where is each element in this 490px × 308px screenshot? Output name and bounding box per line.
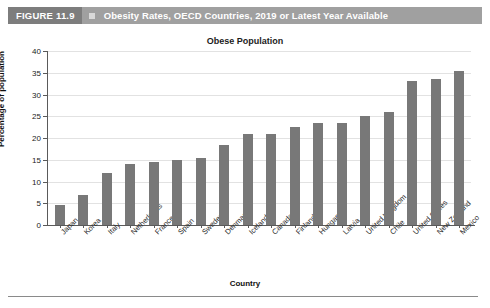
bar-slot: Japan <box>48 51 72 225</box>
y-axis-tick-label: 35 <box>21 68 41 77</box>
bar[interactable] <box>55 205 65 225</box>
bar-slot: Korea <box>72 51 96 225</box>
bar-slot: Finland <box>283 51 307 225</box>
y-axis-tick-label: 20 <box>21 134 41 143</box>
bar-slot: Spain <box>166 51 190 225</box>
y-axis-tick-label: 25 <box>21 112 41 121</box>
bar[interactable] <box>290 127 300 225</box>
bar-slot: Mexico <box>448 51 472 225</box>
y-axis-tick-label: 0 <box>21 221 41 230</box>
figure-number: FIGURE 11.9 <box>16 10 75 21</box>
y-axis-tick-label: 15 <box>21 155 41 164</box>
bar-slot: United States <box>401 51 425 225</box>
bar[interactable] <box>266 134 276 225</box>
bar-slot: United Kingdom <box>354 51 378 225</box>
bar-slot: Hungary <box>307 51 331 225</box>
bar[interactable] <box>172 160 182 225</box>
bar-slot: Chile <box>377 51 401 225</box>
y-axis-tick <box>43 225 47 226</box>
figure-title: Obesity Rates, OECD Countries, 2019 or L… <box>104 10 388 21</box>
y-axis-tick <box>43 73 47 74</box>
bar[interactable] <box>219 145 229 225</box>
bar-slot: New Zealand <box>424 51 448 225</box>
chart-title: Obese Population <box>0 36 490 46</box>
bar[interactable] <box>360 116 370 225</box>
bar[interactable] <box>431 79 441 225</box>
bar-slot: Italy <box>95 51 119 225</box>
bar[interactable] <box>149 162 159 225</box>
y-axis-tick <box>43 203 47 204</box>
bar-slot: Latvia <box>330 51 354 225</box>
bar[interactable] <box>454 71 464 225</box>
bar[interactable] <box>384 112 394 225</box>
bar[interactable] <box>243 134 253 225</box>
y-axis-tick <box>43 160 47 161</box>
bar[interactable] <box>78 195 88 225</box>
bar-slot: Netherlands <box>119 51 143 225</box>
bar-series: JapanKoreaItalyNetherlandsFranceSpainSwe… <box>48 51 471 225</box>
y-axis-tick <box>43 182 47 183</box>
bar[interactable] <box>407 81 417 225</box>
bar[interactable] <box>102 173 112 225</box>
bar-slot: Denmark <box>213 51 237 225</box>
bottom-divider <box>8 296 478 297</box>
y-axis-tick <box>43 116 47 117</box>
bar-slot: Sweden <box>189 51 213 225</box>
y-axis-tick-label: 40 <box>21 47 41 56</box>
bar-slot: Canada <box>260 51 284 225</box>
y-axis-title: Percentage of population <box>0 51 6 147</box>
bar[interactable] <box>196 158 206 225</box>
bar[interactable] <box>125 164 135 225</box>
square-marker-icon <box>89 13 95 19</box>
y-axis-tick <box>43 95 47 96</box>
x-axis-title: Country <box>0 279 490 288</box>
figure-header-bar: FIGURE 11.9 Obesity Rates, OECD Countrie… <box>8 7 482 24</box>
y-axis-tick <box>43 51 47 52</box>
y-axis-tick-label: 10 <box>21 177 41 186</box>
bar-slot: France <box>142 51 166 225</box>
bar[interactable] <box>337 123 347 225</box>
y-axis-tick <box>43 138 47 139</box>
y-axis-tick-label: 30 <box>21 90 41 99</box>
plot-area: 0510152025303540 JapanKoreaItalyNetherla… <box>47 51 471 225</box>
bar-slot: Iceland <box>236 51 260 225</box>
figure-number-box: FIGURE 11.9 <box>8 7 82 24</box>
bar[interactable] <box>313 123 323 225</box>
y-axis-tick-label: 5 <box>21 199 41 208</box>
